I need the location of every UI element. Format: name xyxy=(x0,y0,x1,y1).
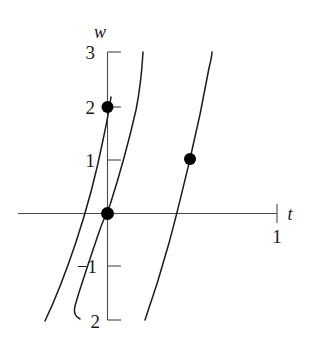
w-tick-label-minus-2: 2 xyxy=(91,311,101,332)
curve-solution-through-right xyxy=(145,52,212,320)
direction-field-solution-curves-figure: w t 3 2 1 −1 2 1 xyxy=(0,0,311,346)
t-axis-label: t xyxy=(287,204,293,224)
w-tick-label-3: 3 xyxy=(86,42,96,63)
data-point-right-curve xyxy=(184,153,196,165)
graph-canvas: w t 3 2 1 −1 2 1 xyxy=(0,0,311,346)
t-tick-label-1: 1 xyxy=(272,226,282,247)
curve-solution-through-0-2 xyxy=(45,97,111,321)
curve-solution-through-origin xyxy=(74,52,143,319)
data-point-origin xyxy=(101,207,114,220)
w-tick-label-1: 1 xyxy=(86,150,96,171)
w-tick-label-2: 2 xyxy=(86,97,96,118)
data-point-0-2 xyxy=(102,101,114,113)
w-axis-label: w xyxy=(94,22,106,42)
w-tick-label-minus-1: −1 xyxy=(77,256,97,277)
